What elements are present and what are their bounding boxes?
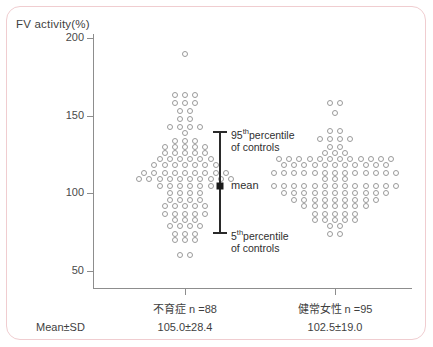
percentile-5-label: 5thpercentile of controls — [231, 227, 289, 255]
percentile-95-line2: of controls — [231, 141, 279, 153]
group-stat-1: 105.0±28.4 — [158, 321, 213, 333]
mean-label: mean — [231, 179, 259, 191]
percentile-95-word: percentile — [249, 129, 295, 141]
percentile-95-cap — [213, 131, 227, 133]
figure-root: FV activity(%) 20015010050 不育症 n =88健常女性… — [0, 0, 433, 347]
percentile-95-label: 95thpercentile of controls — [231, 126, 294, 154]
group-stat-2: 102.5±19.0 — [308, 321, 363, 333]
stat-row-label: Mean±SD — [36, 321, 85, 333]
percentile-5-line2: of controls — [231, 242, 279, 254]
percentile-5-cap — [213, 232, 227, 234]
percentile-marker-group: 95thpercentile of controls mean 5thperce… — [0, 0, 433, 347]
percentile-95-number: 95 — [231, 129, 243, 141]
percentile-5-word: percentile — [243, 230, 289, 242]
mean-marker — [217, 182, 224, 189]
